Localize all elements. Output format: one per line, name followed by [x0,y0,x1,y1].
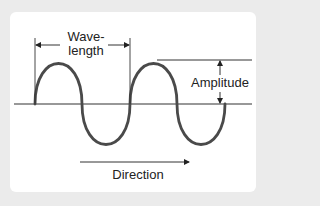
wavelength-label: Wave- length [64,30,108,58]
direction-label: Direction [108,168,168,182]
wavelength-label-line2: length [64,44,108,58]
wavelength-label-line1: Wave- [64,30,108,44]
amplitude-label: Amplitude [190,76,250,90]
